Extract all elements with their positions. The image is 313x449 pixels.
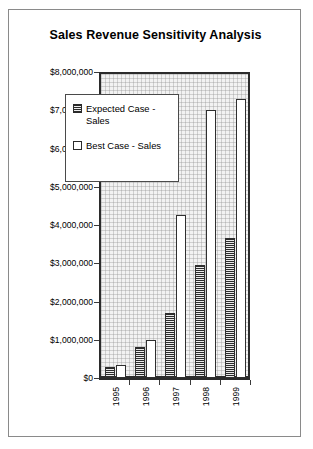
x-axis-tick-label: 1997 <box>172 387 181 406</box>
x-axis-tick <box>129 380 130 385</box>
y-axis-tick-label: $1,000,000 <box>19 335 93 344</box>
white-square-icon <box>73 141 82 150</box>
x-axis-labels: 19951996199719981999 <box>99 387 250 421</box>
y-axis-tick-label: $2,000,000 <box>19 297 93 306</box>
bar-expected-case <box>165 313 175 378</box>
bar-best-case <box>116 365 126 378</box>
x-axis-tick <box>250 380 251 385</box>
x-axis-tick <box>220 380 221 385</box>
bar-best-case <box>236 99 246 378</box>
x-axis-tick-label: 1998 <box>202 387 211 406</box>
y-axis-tick-label: $8,000,000 <box>19 68 93 77</box>
legend-item-expected: Expected Case - Sales <box>73 103 172 126</box>
legend-item-label: Expected Case - Sales <box>86 103 172 126</box>
x-axis-tick <box>190 380 191 385</box>
x-axis-tick-label: 1995 <box>112 387 121 406</box>
chart-card: Sales Revenue Sensitivity Analysis $8,00… <box>8 9 301 437</box>
legend-item-label: Best Case - Sales <box>86 140 161 152</box>
bar-best-case <box>146 340 156 378</box>
bar-expected-case <box>135 347 145 378</box>
hatched-square-icon <box>73 104 82 113</box>
bar-expected-case <box>195 265 205 378</box>
x-axis-tick <box>159 380 160 385</box>
x-axis-tick-label: 1999 <box>232 387 241 406</box>
page-title: Sales Revenue Sensitivity Analysis <box>9 28 302 42</box>
bar-expected-case <box>105 367 115 378</box>
x-axis-ticks <box>99 380 250 385</box>
bar-best-case <box>206 110 216 378</box>
bar-group <box>195 72 216 378</box>
y-axis-tick-label: $3,000,000 <box>19 259 93 268</box>
y-axis-tick-label: $5,000,000 <box>19 182 93 191</box>
chart-legend: Expected Case - Sales Best Case - Sales <box>65 94 179 182</box>
bar-best-case <box>176 215 186 378</box>
x-axis-tick-label: 1996 <box>142 387 151 406</box>
bar-expected-case <box>225 238 235 378</box>
bar-group <box>225 72 246 378</box>
y-axis-tick-label: $0 <box>19 374 93 383</box>
legend-item-best: Best Case - Sales <box>73 140 172 152</box>
y-axis-tick-label: $4,000,000 <box>19 221 93 230</box>
